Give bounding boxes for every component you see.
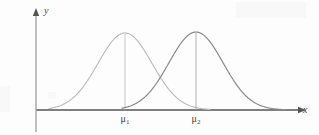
mu1-subscript: 1	[126, 118, 130, 126]
normal-curve-1	[49, 33, 210, 109]
curve-2-group	[122, 32, 286, 110]
normal-curve-2	[122, 32, 286, 110]
y-axis-label: y	[44, 6, 48, 16]
tick-label-mu2: μ2	[192, 114, 201, 124]
y-axis-arrowhead	[33, 8, 39, 16]
plot-canvas	[0, 0, 319, 135]
axes-group	[33, 8, 306, 132]
curve-1-group	[49, 33, 210, 110]
tick-label-mu1: μ1	[121, 114, 130, 124]
mu2-subscript: 2	[197, 118, 201, 126]
x-axis-label: x	[303, 105, 307, 115]
normal-curves-figure: y x μ1 μ2	[0, 0, 319, 135]
